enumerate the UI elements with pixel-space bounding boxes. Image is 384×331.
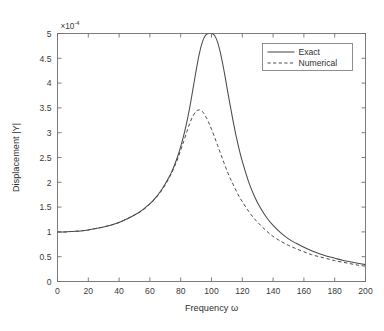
x-tick-label: 80 bbox=[176, 286, 186, 296]
y-tick-label: 3.5 bbox=[40, 103, 52, 113]
y-tick-label: 3 bbox=[47, 128, 52, 138]
x-axis-title: Frequency ω bbox=[185, 303, 238, 313]
x-tick-label: 20 bbox=[84, 286, 94, 296]
x-tick-label: 0 bbox=[55, 286, 60, 296]
x-tick-label: 160 bbox=[297, 286, 312, 296]
y-tick-label: 4.5 bbox=[40, 54, 52, 64]
y-axis-exponent-power: -4 bbox=[74, 20, 80, 26]
figure-canvas: 02040608010012014016018020000.511.522.53… bbox=[0, 0, 384, 331]
legend-label-exact[interactable]: Exact bbox=[299, 47, 321, 57]
y-axis-exponent: ×10-4 bbox=[61, 20, 81, 30]
y-tick-label: 2 bbox=[47, 178, 52, 188]
y-tick-label: 5 bbox=[47, 29, 52, 39]
y-tick-label: 0.5 bbox=[40, 252, 52, 262]
x-tick-label: 180 bbox=[328, 286, 343, 296]
legend-label-numerical[interactable]: Numerical bbox=[299, 58, 338, 68]
x-tick-label: 100 bbox=[204, 286, 219, 296]
line-chart: 02040608010012014016018020000.511.522.53… bbox=[0, 0, 384, 331]
y-tick-label: 1.5 bbox=[40, 202, 52, 212]
series-line-numerical bbox=[58, 110, 366, 266]
x-tick-label: 140 bbox=[266, 286, 281, 296]
y-axis-title: Displacement |Y| bbox=[11, 123, 21, 192]
x-tick-label: 60 bbox=[145, 286, 155, 296]
x-tick-label: 200 bbox=[358, 286, 373, 296]
y-tick-label: 0 bbox=[47, 277, 52, 287]
x-tick-label: 120 bbox=[235, 286, 250, 296]
chart-legend[interactable]: ExactNumerical bbox=[263, 44, 353, 71]
y-tick-label: 4 bbox=[47, 78, 52, 88]
y-tick-label: 2.5 bbox=[40, 153, 52, 163]
y-tick-label: 1 bbox=[47, 227, 52, 237]
x-tick-label: 40 bbox=[114, 286, 124, 296]
